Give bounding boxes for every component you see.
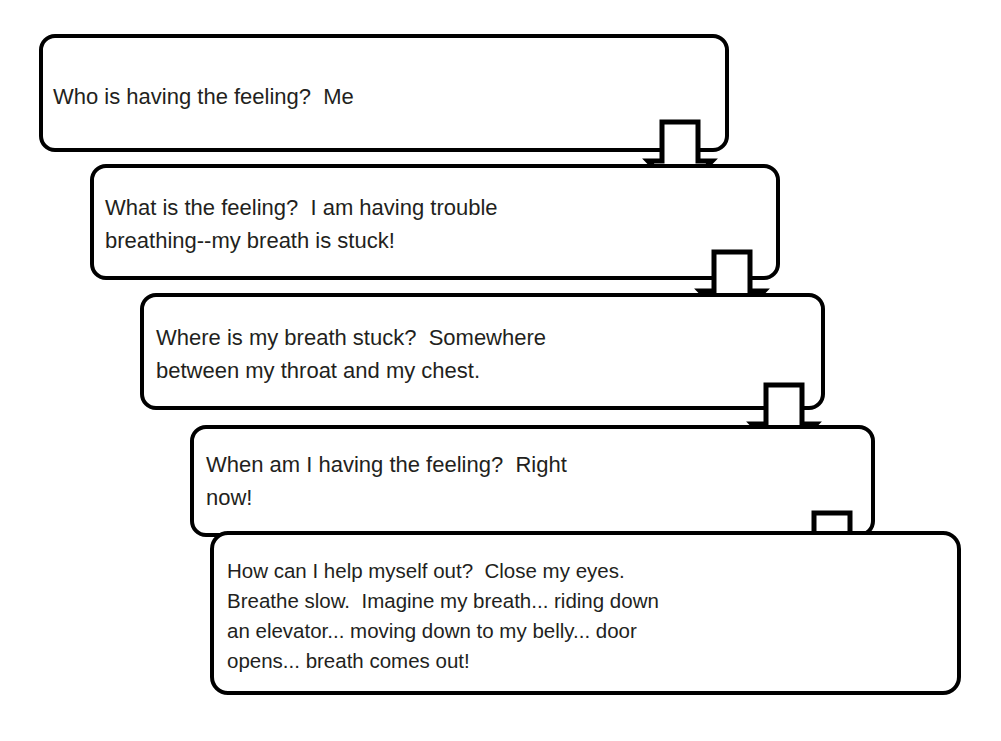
step-box-where: Where is my breath stuck? Somewhere betw… — [142, 295, 823, 408]
step-where-line-1: Where is my breath stuck? Somewhere — [156, 325, 546, 350]
step-box-how: How can I help myself out? Close my eyes… — [212, 533, 959, 693]
step-how-line-3: an elevator... moving down to my belly..… — [227, 619, 637, 642]
step-who-line-1: Who is having the feeling? Me — [53, 84, 354, 109]
step-where-line-2: between my throat and my chest. — [156, 358, 480, 383]
step-what-line-2: breathing--my breath is stuck! — [105, 228, 395, 253]
step-box-where-outline — [142, 295, 823, 408]
step-how-line-2: Breathe slow. Imagine my breath... ridin… — [227, 589, 659, 612]
step-how-line-4: opens... breath comes out! — [227, 649, 470, 672]
step-box-when-outline — [192, 427, 873, 535]
step-when-line-2: now! — [206, 485, 252, 510]
step-when-line-1: When am I having the feeling? Right — [206, 452, 567, 477]
step-box-what-outline — [92, 166, 778, 278]
step-box-what: What is the feeling? I am having trouble… — [92, 166, 778, 278]
step-what-line-1: What is the feeling? I am having trouble — [105, 195, 498, 220]
step-how-line-1: How can I help myself out? Close my eyes… — [227, 559, 625, 582]
flowchart-canvas: Who is having the feeling? Me What is th… — [0, 0, 1001, 741]
step-box-who: Who is having the feeling? Me — [41, 36, 727, 150]
step-box-when: When am I having the feeling? Right now! — [192, 427, 873, 535]
